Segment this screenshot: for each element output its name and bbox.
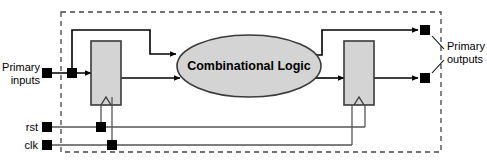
primary-outputs-leader-top <box>432 36 444 49</box>
output-register-block[interactable] <box>344 41 374 105</box>
clk-tap-node <box>107 140 117 150</box>
primary-output-terminal-top[interactable] <box>420 25 430 35</box>
primary-input-tap-node <box>67 68 77 78</box>
primary-input-terminal[interactable] <box>42 68 52 78</box>
primary-inputs-label-line2: inputs <box>11 74 41 86</box>
primary-outputs-leader-bottom <box>432 60 444 73</box>
clk-terminal[interactable] <box>42 140 52 150</box>
rst-tap-node <box>96 122 106 132</box>
rst-label: rst <box>26 121 38 133</box>
clk-label: clk <box>25 139 39 151</box>
combinational-logic-label: Combinational Logic <box>187 59 311 73</box>
rst-terminal[interactable] <box>42 122 52 132</box>
circuit-diagram: Combinational Logic Primary inputs Prima… <box>0 0 487 166</box>
input-bypass-wire <box>72 30 176 73</box>
circuit-canvas: Combinational Logic Primary inputs Prima… <box>0 0 487 166</box>
primary-inputs-label-line1: Primary <box>2 61 40 73</box>
primary-outputs-label-line1: Primary <box>447 40 485 52</box>
primary-output-terminal-bottom[interactable] <box>420 73 430 83</box>
primary-outputs-label-line2: outputs <box>447 53 484 65</box>
input-register-block[interactable] <box>91 41 121 105</box>
